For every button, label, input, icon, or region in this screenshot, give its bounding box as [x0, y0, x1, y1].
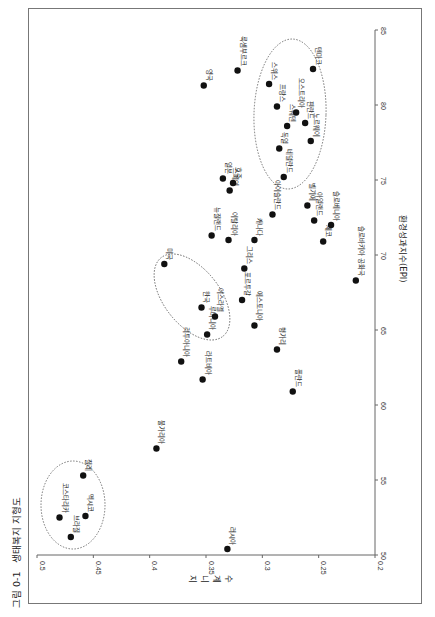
- point-label: 에스토니아: [255, 292, 264, 322]
- point-label: 이스라엘: [216, 289, 225, 313]
- point-marker: [251, 237, 257, 243]
- epi-tick-label: 55: [380, 477, 387, 485]
- epi-tick-label: 65: [380, 327, 387, 335]
- point-label: 슬로베니아: [332, 191, 341, 221]
- epi-tick-label: 70: [380, 252, 387, 260]
- point-label: 오스트리아: [297, 79, 306, 109]
- data-point: 이탈리아: [225, 212, 238, 243]
- data-point: 미국: [161, 248, 174, 267]
- point-label: 프랑스: [278, 85, 286, 103]
- group-ellipse: [139, 240, 245, 353]
- point-marker: [201, 82, 207, 88]
- data-point: 폴란드: [290, 370, 302, 395]
- data-point: 리투아니아: [178, 328, 191, 365]
- point-marker: [225, 237, 231, 243]
- data-point: 라트비아: [199, 352, 212, 383]
- data-point: 슬로바키아 공화국: [353, 226, 366, 283]
- point-marker: [274, 103, 280, 109]
- point-label: 이탈리아: [230, 212, 239, 236]
- data-point: 헝가리: [274, 328, 287, 353]
- data-point: 체코: [320, 226, 332, 245]
- data-points: 코스타리카브라질멕시코칠레불가리아러시아폴란드라트비아리투아니아헝가리루마니아에…: [56, 37, 366, 553]
- point-label: 아이슬란드: [273, 181, 282, 211]
- gini-axis-title: 계: [212, 575, 222, 583]
- data-point: 스위스: [266, 62, 278, 87]
- point-marker: [241, 265, 247, 271]
- epi-tick-label: 60: [380, 402, 387, 410]
- point-marker: [224, 546, 230, 552]
- point-marker: [353, 277, 359, 283]
- data-point: 그리스: [241, 247, 254, 272]
- data-point: 러시아: [224, 527, 237, 552]
- data-point: 이스라엘: [212, 289, 225, 320]
- data-point: 덴마크: [310, 47, 323, 72]
- point-label: 네덜란드: [285, 149, 294, 173]
- data-point: 프랑스: [274, 85, 286, 110]
- point-label: 한국: [202, 292, 210, 304]
- data-point: 영국: [201, 70, 214, 89]
- point-label: 호주: [234, 167, 242, 179]
- epi-tick-label: 85: [380, 27, 387, 35]
- point-marker: [220, 175, 226, 181]
- point-marker: [199, 376, 205, 382]
- point-marker: [178, 358, 184, 364]
- point-label: 미국: [165, 248, 174, 260]
- point-marker: [234, 67, 240, 73]
- data-point: 에스토니아: [251, 292, 264, 329]
- data-point: 룩셈부르크: [234, 37, 247, 74]
- scatter-plot: 0.50.450.40.350.30.250.2지니계수505560657075…: [0, 0, 435, 617]
- point-label: 벨기에: [308, 184, 317, 202]
- data-point: 오스트리아: [293, 79, 306, 116]
- gini-axis-title: 니: [200, 575, 210, 583]
- point-label: 포르투갈: [243, 272, 251, 296]
- point-marker: [161, 261, 167, 267]
- group-ellipses: [41, 38, 329, 549]
- point-marker: [153, 445, 159, 451]
- point-label: 폴란드: [294, 370, 302, 388]
- point-marker: [266, 81, 272, 87]
- point-marker: [293, 109, 299, 115]
- point-marker: [284, 123, 290, 129]
- point-marker: [198, 304, 204, 310]
- point-marker: [310, 66, 316, 72]
- data-point: 불가리아: [153, 421, 166, 452]
- point-marker: [269, 211, 275, 217]
- epi-tick-label: 80: [380, 102, 387, 110]
- point-label: 라트비아: [204, 352, 213, 376]
- data-point: 포르투갈: [239, 272, 251, 303]
- point-label: 뉴질랜드: [213, 208, 222, 232]
- point-label: 일본: [224, 163, 233, 175]
- point-marker: [311, 217, 317, 223]
- data-point: 멕시코: [82, 494, 95, 519]
- point-label: 칠레: [84, 460, 93, 472]
- epi-tick-label: 75: [380, 177, 387, 185]
- point-marker: [212, 313, 218, 319]
- point-label: 러시아: [228, 527, 237, 545]
- point-label: 덴마크: [314, 47, 323, 65]
- point-marker: [230, 180, 236, 186]
- point-marker: [302, 120, 308, 126]
- point-label: 브라질: [72, 515, 81, 533]
- point-marker: [328, 222, 334, 228]
- point-marker: [80, 472, 86, 478]
- data-point: 브라질: [68, 515, 81, 540]
- data-point: 루마니아: [204, 307, 217, 338]
- point-marker: [251, 322, 257, 328]
- gini-tick-label: 0.45: [95, 561, 102, 575]
- point-marker: [82, 513, 88, 519]
- point-label: 불가리아: [157, 421, 166, 445]
- data-point: 네덜란드: [281, 149, 294, 180]
- point-marker: [276, 145, 282, 151]
- data-point: 아이슬란드: [269, 181, 282, 218]
- point-marker: [320, 238, 326, 244]
- point-marker: [226, 187, 232, 193]
- data-point: 캐나다: [251, 218, 264, 243]
- point-label: 리투아니아: [182, 328, 191, 358]
- point-label: 슬로바키아 공화국: [357, 226, 366, 276]
- point-label: 독일: [280, 133, 289, 145]
- point-label: 헝가리: [278, 328, 287, 346]
- gini-axis-title: 지: [188, 575, 198, 583]
- point-label: 스위스: [270, 62, 278, 80]
- point-label: 룩셈부르크: [239, 37, 248, 67]
- gini-tick-label: 0.4: [151, 561, 158, 571]
